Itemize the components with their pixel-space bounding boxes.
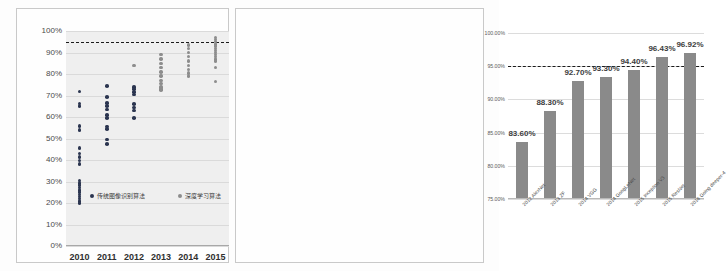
x-axis-tick-label: 2015 bbox=[195, 252, 235, 262]
scatter-point bbox=[105, 127, 109, 131]
scatter-plot-area: 0%10%20%30%40%50%60%70%80%90%100% 传统图像识别… bbox=[66, 31, 229, 246]
y-axis-tick-label: 90.00% bbox=[471, 96, 505, 102]
legend-label: 深度学习算法 bbox=[185, 191, 221, 200]
scatter-point bbox=[187, 47, 190, 50]
scatter-point bbox=[78, 146, 82, 150]
y-axis-tick-label: 85.00% bbox=[471, 130, 505, 136]
y-axis-tick-label: 70% bbox=[26, 92, 62, 100]
bar bbox=[572, 81, 584, 199]
y-axis-tick-label: 90% bbox=[26, 49, 62, 57]
y-axis-tick-label: 10% bbox=[26, 221, 62, 229]
gridline bbox=[66, 246, 229, 247]
bar bbox=[684, 53, 696, 199]
y-axis-tick-label: 95.00% bbox=[471, 63, 505, 69]
y-axis-tick-label: 30% bbox=[26, 178, 62, 186]
scatter-point bbox=[105, 116, 109, 120]
gridline bbox=[66, 53, 229, 54]
scatter-point bbox=[159, 62, 162, 65]
gridline bbox=[66, 117, 229, 118]
legend-item[interactable]: 传统图像识别算法 bbox=[90, 191, 145, 200]
gridline bbox=[66, 31, 229, 32]
bar-value-label: 83.60% bbox=[501, 129, 543, 138]
legend-item[interactable]: 深度学习算法 bbox=[178, 191, 221, 200]
scatter-point bbox=[132, 109, 136, 113]
bar bbox=[516, 142, 528, 199]
gridline bbox=[66, 160, 229, 161]
bar-value-label: 88.30% bbox=[529, 98, 571, 107]
scatter-point bbox=[187, 74, 190, 77]
gridline bbox=[66, 225, 229, 226]
bar-value-label: 94.40% bbox=[613, 57, 655, 66]
scatter-point bbox=[78, 128, 82, 132]
right-chart-panel: 75.00%80.00%85.00%90.00%95.00%100.00% 83… bbox=[235, 8, 484, 263]
scatter-point bbox=[132, 93, 136, 97]
scatter-point bbox=[132, 116, 136, 120]
legend-marker-icon bbox=[178, 194, 182, 198]
y-axis-tick-label: 75.00% bbox=[471, 196, 505, 202]
scatter-point bbox=[105, 138, 109, 142]
chart-legend: 传统图像识别算法深度学习算法 bbox=[90, 191, 235, 203]
scatter-point bbox=[78, 162, 82, 166]
scatter-point bbox=[105, 142, 109, 146]
scatter-point bbox=[159, 70, 162, 73]
y-axis-tick-label: 80.00% bbox=[471, 163, 505, 169]
y-axis-tick-label: 100% bbox=[26, 27, 62, 35]
scatter-point bbox=[187, 51, 190, 54]
bar-value-label: 96.92% bbox=[669, 40, 711, 49]
gridline bbox=[508, 33, 704, 34]
gridline bbox=[66, 203, 229, 204]
scatter-point bbox=[187, 59, 190, 62]
scatter-point bbox=[214, 59, 217, 62]
y-axis-tick-label: 40% bbox=[26, 156, 62, 164]
y-axis-tick-label: 50% bbox=[26, 135, 62, 143]
legend-marker-icon bbox=[90, 194, 94, 198]
scatter-point bbox=[159, 57, 162, 60]
y-axis-tick-label: 100.00% bbox=[471, 30, 505, 36]
y-axis-tick-label: 0% bbox=[26, 242, 62, 250]
y-axis-tick-label: 80% bbox=[26, 70, 62, 78]
gridline bbox=[66, 139, 229, 140]
scatter-point bbox=[159, 74, 162, 77]
scatter-point bbox=[132, 64, 135, 67]
gridline bbox=[66, 96, 229, 97]
scatter-point bbox=[105, 95, 109, 99]
legend-label: 传统图像识别算法 bbox=[97, 191, 145, 200]
scatter-point bbox=[187, 64, 190, 67]
scatter-point bbox=[159, 88, 162, 91]
bar-plot-area: 75.00%80.00%85.00%90.00%95.00%100.00% 83… bbox=[508, 33, 704, 199]
dashed-reference-line bbox=[66, 42, 229, 43]
gridline bbox=[66, 182, 229, 183]
scatter-point bbox=[105, 84, 109, 88]
x-axis-line bbox=[508, 198, 704, 199]
gridline bbox=[508, 199, 704, 200]
gridline bbox=[66, 74, 229, 75]
scatter-point bbox=[159, 66, 162, 69]
scatter-point bbox=[105, 108, 109, 112]
x-axis-line bbox=[66, 245, 229, 246]
bar bbox=[600, 77, 612, 199]
y-axis-tick-label: 60% bbox=[26, 113, 62, 121]
y-axis-tick-label: 20% bbox=[26, 199, 62, 207]
left-chart-panel: 0%10%20%30%40%50%60%70%80%90%100% 传统图像识别… bbox=[16, 8, 229, 263]
